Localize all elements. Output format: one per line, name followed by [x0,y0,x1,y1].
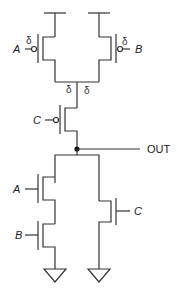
label-output: OUT [147,144,170,155]
label-input-b-bottom: B [15,230,22,241]
annotation-mark: δ [26,36,32,46]
ground-right-icon [88,269,110,282]
annotation-mark: δ [122,37,128,47]
label-input-a-top: A [13,44,20,55]
annotation-mark: δ [66,85,72,95]
pmos-c-transistor [45,105,77,149]
vdd-rail-left [44,13,66,37]
annotation-mark: δ [84,86,90,96]
label-input-a-bottom: A [13,184,20,195]
nmos-a-transistor [25,174,55,224]
ground-left-icon [44,269,66,282]
label-input-c-bottom: C [134,206,142,217]
vdd-rail-right [88,13,110,37]
label-input-c-mid: C [33,115,41,126]
label-input-b-top: B [135,44,142,55]
circuit-diagram: A B C OUT A B C δ δ δ δ [0,0,178,295]
nmos-c-transistor [99,198,130,269]
nmos-b-transistor [25,221,55,269]
